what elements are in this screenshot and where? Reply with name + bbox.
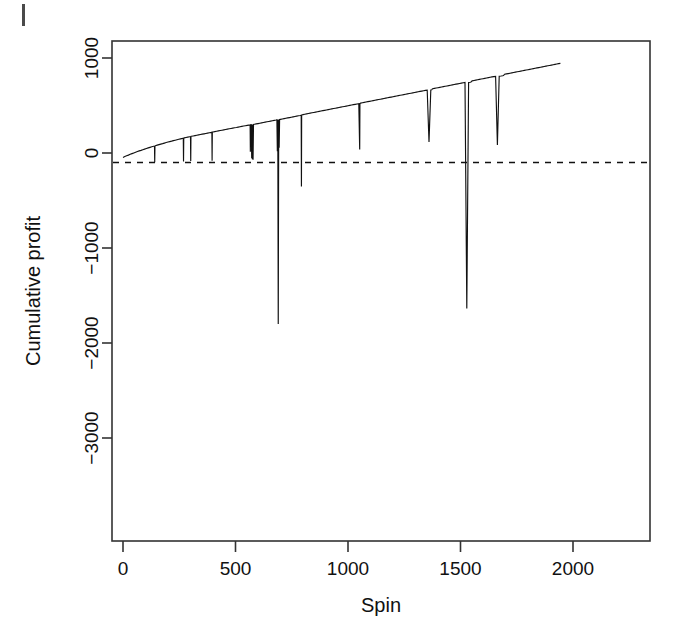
y-tick-label: 0 xyxy=(81,148,102,159)
figure-panel: 10000−1000−2000−3000 0500100015002000 Sp… xyxy=(0,0,684,638)
plot-area-border xyxy=(112,41,650,541)
y-axis-ticks xyxy=(102,58,112,438)
y-axis-title: Cumulative profit xyxy=(22,216,44,367)
x-tick-label: 1500 xyxy=(439,558,481,579)
x-tick-label: 500 xyxy=(220,558,252,579)
x-axis-ticks xyxy=(123,541,573,552)
cumulative-profit-chart: 10000−1000−2000−3000 0500100015002000 Sp… xyxy=(0,0,684,638)
x-axis-title: Spin xyxy=(361,594,401,616)
cumulative-profit-line xyxy=(123,63,560,324)
y-tick-label: −3000 xyxy=(81,411,102,464)
y-axis-tick-labels: 10000−1000−2000−3000 xyxy=(81,37,102,465)
y-tick-label: 1000 xyxy=(81,37,102,79)
y-tick-label: −1000 xyxy=(81,221,102,274)
x-axis-tick-labels: 0500100015002000 xyxy=(118,558,594,579)
x-tick-label: 0 xyxy=(118,558,129,579)
x-tick-label: 2000 xyxy=(552,558,594,579)
y-tick-label: −2000 xyxy=(81,316,102,369)
x-tick-label: 1000 xyxy=(327,558,369,579)
